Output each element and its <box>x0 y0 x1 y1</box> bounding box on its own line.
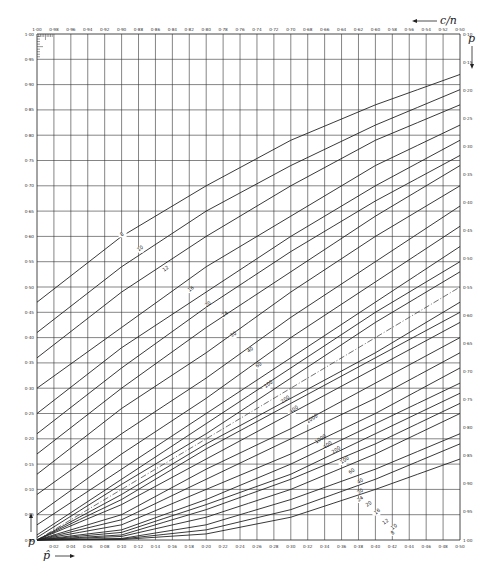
curve-upper-n-400 <box>37 262 460 535</box>
right-tick-label: 1·00 <box>463 538 473 543</box>
axis-tick-labels: 1·000·980·960·940·920·900·880·860·840·82… <box>25 27 473 549</box>
left-tick-label: 0·95 <box>25 57 35 62</box>
curve-upper-n-200 <box>37 247 460 525</box>
p-hat-arrow-head-icon <box>70 554 75 558</box>
curve-upper-n-20 <box>37 140 460 413</box>
curve-label: 400 <box>288 404 299 414</box>
left-tick-label: 0·65 <box>25 209 35 214</box>
top-tick-label: 0·92 <box>100 27 110 32</box>
right-tick-label: 0·50 <box>463 256 473 261</box>
bottom-tick-label: 0·10 <box>117 544 127 549</box>
curve-label: 200 <box>330 444 341 454</box>
bottom-tick-label: 0·26 <box>252 544 262 549</box>
curve-lower-n-40 <box>37 368 460 540</box>
nomogram-chart: 8101216202430406010020040010001000400200… <box>0 0 488 576</box>
top-tick-label: 0·82 <box>185 27 195 32</box>
bottom-tick-label: 0·36 <box>337 544 347 549</box>
left-tick-label: 0·90 <box>25 82 35 87</box>
right-tick-label: 0·75 <box>463 397 473 402</box>
bottom-tick-label: 0·24 <box>235 544 245 549</box>
top-tick-label: 0·70 <box>286 27 296 32</box>
left-tick-label: 0·45 <box>25 310 35 315</box>
curve-upper-n-24 <box>37 155 460 433</box>
left-tick-label: 0·60 <box>25 234 35 239</box>
bottom-tick-label: 0·06 <box>83 544 93 549</box>
right-tick-label: 0·40 <box>463 200 473 205</box>
top-tick-label: 0·96 <box>66 27 76 32</box>
bottom-tick-label: 0·02 <box>49 544 59 549</box>
left-tick-label: 0·30 <box>25 386 35 391</box>
bottom-tick-label: 0·46 <box>421 544 431 549</box>
curve-label: 100 <box>339 455 350 465</box>
top-tick-label: 0·68 <box>303 27 313 32</box>
bottom-tick-label: 0·48 <box>438 544 448 549</box>
bottom-tick-label: 0·30 <box>286 544 296 549</box>
top-tick-label: 0·62 <box>354 27 364 32</box>
right-tick-label: 0·35 <box>463 172 473 177</box>
top-tick-label: 0·58 <box>388 27 398 32</box>
top-tick-label: 0·60 <box>371 27 381 32</box>
curve-series: 8101216202430406010020040010001000400200… <box>37 74 460 540</box>
bottom-tick-label: 0·04 <box>66 544 76 549</box>
top-tick-label: 0·80 <box>202 27 212 32</box>
left-tick-label: 0·55 <box>25 259 35 264</box>
bottom-tick-label: 0·40 <box>371 544 381 549</box>
bottom-tick-label: 0·08 <box>100 544 110 549</box>
c-over-n-arrow-head-icon <box>412 19 417 23</box>
bottom-tick-label: 0·20 <box>202 544 212 549</box>
top-tick-label: 0·76 <box>235 27 245 32</box>
bottom-tick-label: 0·38 <box>354 544 364 549</box>
right-tick-label: 0·65 <box>463 341 473 346</box>
curve-lower-n-200 <box>37 322 460 540</box>
top-tick-label: 0·66 <box>320 27 330 32</box>
curve-upper-n-40 <box>37 186 460 474</box>
bottom-tick-label: 0·42 <box>388 544 398 549</box>
bottom-tick-label: 0·14 <box>151 544 161 549</box>
left-tick-label: 0·40 <box>25 335 35 340</box>
left-tick-label: 0·35 <box>25 360 35 365</box>
right-tick-label: 0·30 <box>463 144 473 149</box>
bottom-tick-label: 0·28 <box>269 544 279 549</box>
bottom-tick-label: 0·22 <box>218 544 228 549</box>
right-p-arrow-head-icon <box>470 64 474 69</box>
top-tick-label: 0·84 <box>168 27 178 32</box>
bottom-tick-label: 0·50 <box>455 544 465 549</box>
left-tick-label: 0·70 <box>25 183 35 188</box>
left-tick-label: 0·05 <box>25 512 35 517</box>
bottom-axis-label: p̂ <box>43 549 50 562</box>
right-tick-label: 0·60 <box>463 313 473 318</box>
grid <box>37 34 460 540</box>
top-tick-label: 0·88 <box>134 27 144 32</box>
right-tick-label: 0·45 <box>463 228 473 233</box>
curve-lower-n-30 <box>37 383 460 540</box>
right-tick-label: 0·15 <box>463 60 473 65</box>
top-tick-label: 0·64 <box>337 27 347 32</box>
curve-lower-n-12 <box>37 434 460 540</box>
top-tick-label: 0·54 <box>421 27 431 32</box>
top-tick-label: 0·72 <box>269 27 279 32</box>
right-tick-label: 0·20 <box>463 88 473 93</box>
top-tick-label: 0·86 <box>151 27 161 32</box>
top-tick-label: 0·94 <box>83 27 93 32</box>
curve-upper-n-12 <box>37 105 460 358</box>
top-tick-label: 0·90 <box>117 27 127 32</box>
left-tick-label: 0·15 <box>25 462 35 467</box>
top-tick-label: 0·56 <box>405 27 415 32</box>
bottom-tick-label: 0·16 <box>168 544 178 549</box>
top-tick-label: 0·74 <box>252 27 262 32</box>
left-axis-label: p <box>28 535 35 548</box>
right-tick-label: 0·55 <box>463 285 473 290</box>
right-tick-label: 0·25 <box>463 116 473 121</box>
right-tick-label: 0·80 <box>463 425 473 430</box>
left-tick-label: 0·50 <box>25 285 35 290</box>
curve-lower-n-24 <box>37 393 460 540</box>
left-tick-label: 0·20 <box>25 436 35 441</box>
top-tick-label: 0·98 <box>49 27 59 32</box>
top-tick-label: 0·78 <box>218 27 228 32</box>
left-tick-label: 0·10 <box>25 487 35 492</box>
right-tick-label: 0·95 <box>463 509 473 514</box>
right-tick-label: 0·70 <box>463 369 473 374</box>
left-tick-label: 0·25 <box>25 411 35 416</box>
top-axis-label: c/n <box>440 14 457 27</box>
left-tick-label: 0·85 <box>25 107 35 112</box>
